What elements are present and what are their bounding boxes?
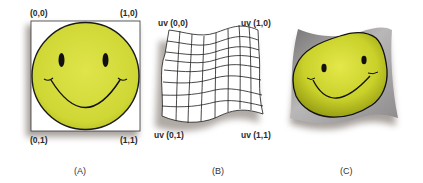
caption-b: (B) [212,166,224,176]
mapped-left-eye-icon [321,64,326,72]
right-eye-icon [103,53,109,67]
caption-a: (A) [74,166,86,176]
mapped-right-eye-icon [361,56,366,64]
uv-label-bottom-left: uv (0,1) [154,130,184,140]
uv-label-top-left: uv (0,0) [158,18,188,28]
uv-label-bottom-right: uv (1,1) [241,130,271,140]
mapped-surface [280,0,423,160]
caption-c: (C) [340,166,353,176]
corner-label-top-left: (0,0) [30,8,47,18]
smiley-face [32,23,139,130]
panel-a: (0,0) (1,0) (0,1) (1,1) (A) [0,0,150,183]
uv-label-top-right: uv (1,0) [241,18,271,28]
corner-label-bottom-left: (0,1) [30,135,47,145]
left-eye-icon [59,53,65,67]
corner-label-bottom-right: (1,1) [120,135,137,145]
panel-b: uv (0,0) uv (1,0) uv (0,1) uv (1,1) (B) [140,0,290,183]
panel-c: (C) [280,0,423,183]
corner-label-top-right: (1,0) [120,8,137,18]
